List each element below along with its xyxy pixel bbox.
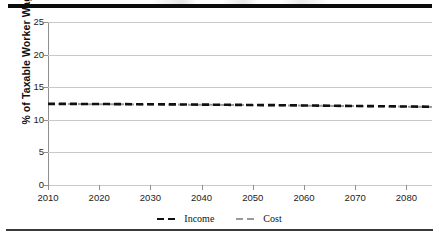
x-tick-mark bbox=[150, 185, 151, 190]
x-tick-mark bbox=[48, 185, 49, 190]
legend-dash-icon bbox=[236, 214, 258, 224]
legend-item-income[interactable]: Income bbox=[157, 214, 214, 224]
x-tick-label: 2050 bbox=[229, 193, 277, 203]
y-tick-label: 25 bbox=[4, 17, 44, 27]
gridline-y bbox=[48, 185, 432, 186]
y-tick-label: 20 bbox=[4, 50, 44, 60]
y-tick-label: 15 bbox=[4, 82, 44, 92]
bottom-horizontal-rule bbox=[6, 229, 433, 231]
x-tick-label: 2060 bbox=[280, 193, 328, 203]
series-line-income bbox=[48, 104, 432, 107]
x-tick-mark bbox=[99, 185, 100, 190]
chart-figure: % of Taxable Worker Wages 0510152025 201… bbox=[0, 0, 439, 238]
data-series-lines bbox=[48, 22, 432, 185]
top-horizontal-rule bbox=[8, 4, 432, 8]
x-tick-mark bbox=[355, 185, 356, 190]
legend-item-cost[interactable]: Cost bbox=[236, 214, 281, 224]
y-tick-label: 5 bbox=[4, 147, 44, 157]
x-tick-label: 2020 bbox=[75, 193, 123, 203]
x-tick-label: 2070 bbox=[331, 193, 379, 203]
plot-area: 20102020203020402050206020702080 bbox=[48, 22, 432, 185]
x-tick-label: 2040 bbox=[178, 193, 226, 203]
x-tick-mark bbox=[406, 185, 407, 190]
x-tick-label: 2030 bbox=[126, 193, 174, 203]
y-axis-ticks: 0510152025 bbox=[0, 22, 44, 185]
legend-label: Income bbox=[184, 214, 214, 224]
x-tick-label: 2010 bbox=[24, 193, 72, 203]
x-tick-mark bbox=[304, 185, 305, 190]
legend-dash-icon bbox=[157, 214, 179, 224]
x-tick-label: 2080 bbox=[382, 193, 430, 203]
y-tick-label: 10 bbox=[4, 115, 44, 125]
chart-legend: IncomeCost bbox=[0, 210, 439, 228]
y-tick-label: 0 bbox=[4, 180, 44, 190]
x-tick-mark bbox=[253, 185, 254, 190]
x-tick-mark bbox=[202, 185, 203, 190]
legend-label: Cost bbox=[263, 214, 281, 224]
